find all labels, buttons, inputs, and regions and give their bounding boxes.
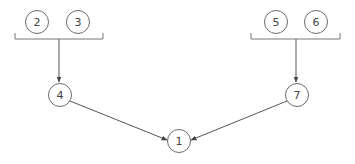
bracket-right [251, 33, 340, 39]
node-label: 1 [176, 135, 183, 148]
node-label: 3 [75, 16, 82, 29]
node-6: 6 [305, 11, 328, 34]
node-label: 2 [34, 16, 41, 29]
node-label: 6 [313, 16, 320, 29]
edge-7-to-1 [191, 101, 287, 140]
node-label: 7 [294, 89, 301, 102]
bracket-left [15, 33, 103, 39]
node-3: 3 [67, 11, 90, 34]
node-label: 4 [57, 89, 64, 102]
node-label: 5 [273, 16, 280, 29]
node-5: 5 [265, 11, 288, 34]
node-1: 1 [168, 130, 191, 153]
node-2: 2 [26, 11, 49, 34]
node-4: 4 [49, 84, 72, 107]
tree-diagram: 2 3 5 6 4 7 1 [0, 0, 355, 164]
node-7: 7 [286, 84, 309, 107]
edge-4-to-1 [70, 101, 167, 140]
